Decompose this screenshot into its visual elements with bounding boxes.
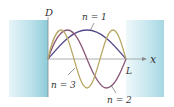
- leader-n3: [68, 68, 75, 75]
- left-wall: [9, 20, 48, 97]
- axis-y-label: D: [44, 7, 53, 18]
- length-label: L: [125, 66, 132, 76]
- leader-n1: [90, 23, 94, 31]
- label-n3: n = 3: [51, 80, 76, 90]
- label-n2: n = 2: [107, 95, 132, 105]
- axis-x-label: x: [150, 53, 157, 66]
- standing-wave-diagram: D x L n = 1 n = 3 n = 2: [0, 0, 174, 107]
- leader-n2: [111, 85, 116, 93]
- label-n1: n = 1: [82, 12, 107, 22]
